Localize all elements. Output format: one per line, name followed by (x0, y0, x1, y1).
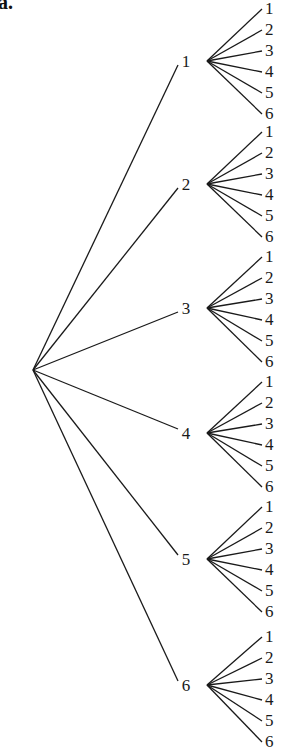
leaf-edge (207, 433, 262, 466)
outcome-label: 1 (182, 52, 191, 71)
leaf-edge (207, 685, 262, 721)
leaf-label: 4 (265, 560, 274, 579)
outcome-label: 2 (182, 175, 191, 194)
leaf-label: 4 (265, 185, 274, 204)
tree-diagram: a. 1123456212345631234564123456512345661… (0, 0, 287, 755)
tree-svg: 1123456212345631234564123456512345661234… (0, 0, 287, 755)
leaf-edge (207, 685, 262, 700)
leaf-edge (207, 433, 262, 487)
leaf-edge (207, 433, 262, 445)
part-label: a. (0, 0, 13, 14)
leaf-label: 6 (265, 227, 274, 246)
leaf-label: 3 (265, 41, 274, 60)
leaf-label: 2 (265, 518, 274, 537)
leaf-label: 3 (265, 289, 274, 308)
branch-6: 6123456 (33, 370, 274, 751)
leaf-label: 3 (265, 164, 274, 183)
leaf-label: 1 (265, 497, 274, 516)
root-edge (33, 188, 178, 370)
leaf-edge (207, 679, 262, 685)
root-edge (33, 370, 178, 429)
leaf-label: 4 (265, 435, 274, 454)
leaf-label: 3 (265, 414, 274, 433)
leaf-label: 1 (265, 122, 274, 141)
leaf-label: 3 (265, 539, 274, 558)
branch-2: 2123456 (33, 122, 274, 370)
leaf-label: 2 (265, 143, 274, 162)
root-edge (33, 312, 178, 370)
leaf-label: 5 (265, 711, 274, 730)
leaf-label: 3 (265, 669, 274, 688)
leaf-label: 2 (265, 393, 274, 412)
leaf-label: 2 (265, 20, 274, 39)
root-edge (33, 370, 178, 681)
branch-4: 4123456 (33, 370, 274, 496)
outcome-label: 4 (182, 424, 191, 443)
leaf-edge (207, 308, 262, 320)
leaf-label: 6 (265, 352, 274, 371)
leaf-label: 5 (265, 581, 274, 600)
leaf-label: 4 (265, 310, 274, 329)
outcome-label: 5 (182, 550, 191, 569)
leaf-label: 1 (265, 372, 274, 391)
leaf-label: 6 (265, 602, 274, 621)
leaf-label: 4 (265, 62, 274, 81)
leaf-label: 6 (265, 732, 274, 751)
leaf-edge (207, 658, 262, 685)
leaf-edge (207, 308, 262, 362)
leaf-label: 2 (265, 648, 274, 667)
outcome-label: 3 (182, 299, 191, 318)
leaf-edge (207, 308, 262, 341)
branch-3: 3123456 (33, 247, 274, 371)
leaf-edge (207, 685, 262, 742)
leaf-label: 5 (265, 206, 274, 225)
leaf-label: 1 (265, 247, 274, 266)
leaf-label: 5 (265, 456, 274, 475)
leaf-label: 1 (265, 627, 274, 646)
root-edge (33, 370, 178, 555)
leaf-label: 6 (265, 477, 274, 496)
leaf-label: 6 (265, 104, 274, 123)
leaf-label: 5 (265, 83, 274, 102)
leaf-label: 1 (265, 0, 274, 18)
leaf-label: 4 (265, 690, 274, 709)
branch-5: 5123456 (33, 370, 274, 621)
outcome-label: 6 (182, 676, 191, 695)
leaf-edge (207, 637, 262, 685)
root-edge (33, 65, 178, 370)
leaf-label: 2 (265, 268, 274, 287)
leaf-label: 5 (265, 331, 274, 350)
